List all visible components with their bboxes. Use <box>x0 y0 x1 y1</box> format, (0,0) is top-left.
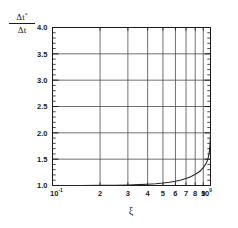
semilog-line-chart: 1.01.52.02.53.03.54.0 10-123456789100 Δt… <box>0 0 238 228</box>
y-axis-title-denominator: Δt <box>18 25 27 35</box>
x-tick-label: 5 <box>161 189 165 198</box>
y-tick-label: 1.5 <box>37 155 47 164</box>
x-tick-label: 8 <box>193 189 197 198</box>
x-tick-label: 6 <box>173 189 177 198</box>
x-axis-title: ξ <box>129 205 134 217</box>
y-tick-label: 2.0 <box>37 129 47 138</box>
y-tick-label: 3.0 <box>37 76 47 85</box>
x-tick-label: 2 <box>98 189 102 198</box>
x-tick-label: 7 <box>184 189 188 198</box>
x-tick-label: 3 <box>126 189 130 198</box>
y-tick-label: 2.5 <box>37 102 47 111</box>
y-tick-label: 3.5 <box>37 50 47 59</box>
y-tick-label: 4.0 <box>37 23 47 32</box>
y-tick-label: 1.0 <box>37 181 47 190</box>
chart-figure: 1.01.52.02.53.03.54.0 10-123456789100 Δt… <box>0 0 238 228</box>
